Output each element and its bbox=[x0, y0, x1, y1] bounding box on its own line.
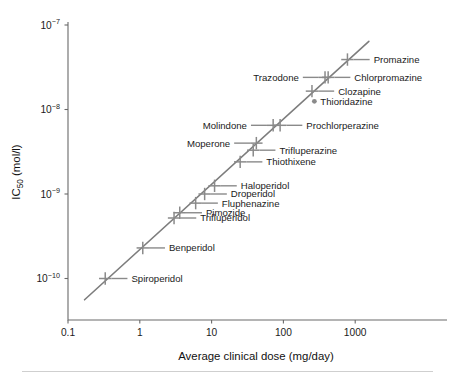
point-marker-dot bbox=[312, 99, 317, 104]
data-point: Molindone bbox=[203, 119, 280, 131]
point-label: Trazodone bbox=[253, 72, 299, 83]
point-label: Chlorpromazine bbox=[354, 72, 422, 83]
data-point: Chlorpromazine bbox=[322, 71, 422, 83]
point-label: Moperone bbox=[187, 138, 230, 149]
axis-lines bbox=[68, 22, 447, 320]
point-label: Promazine bbox=[374, 54, 420, 65]
y-tick-label: 10−9 bbox=[40, 186, 60, 199]
x-axis-ticks: 0.11101001000 bbox=[61, 320, 367, 338]
point-label: Benperidol bbox=[169, 242, 215, 253]
y-axis-ticks: 10−710−810−910−10 bbox=[36, 17, 68, 284]
point-label: Thioridazine bbox=[320, 96, 372, 107]
point-label: Trifluperazine bbox=[279, 145, 337, 156]
point-label: Prochlorperazine bbox=[306, 120, 379, 131]
x-tick-label: 10 bbox=[206, 327, 218, 338]
point-label: Trifluperidol bbox=[200, 212, 250, 223]
x-tick-label: 1000 bbox=[344, 327, 367, 338]
footer-rule bbox=[22, 371, 433, 372]
data-point: Thiothixene bbox=[234, 156, 316, 168]
scatter-plot: 0.11101001000 10−710−810−910−10 Promazin… bbox=[0, 0, 455, 378]
regression-line bbox=[85, 41, 369, 299]
data-point: Thioridazine bbox=[312, 96, 373, 107]
regression-line-group bbox=[85, 41, 369, 299]
point-label: Thiothixene bbox=[266, 156, 316, 167]
point-label: Spiroperidol bbox=[131, 273, 182, 284]
x-tick-label: 0.1 bbox=[61, 327, 75, 338]
axes-group bbox=[68, 22, 447, 320]
point-label: Molindone bbox=[203, 120, 247, 131]
figure-container: 0.11101001000 10−710−810−910−10 Promazin… bbox=[0, 0, 455, 378]
y-tick-label: 10−7 bbox=[40, 17, 60, 30]
data-point: Trifluperazine bbox=[247, 144, 337, 156]
x-tick-label: 1 bbox=[137, 327, 143, 338]
data-point: Prochlorperazine bbox=[274, 119, 379, 131]
data-points-group: PromazineChlorpromazineTrazodoneClozapin… bbox=[99, 53, 422, 284]
y-axis-title: IC50 (mol/l) bbox=[10, 144, 25, 200]
x-tick-label: 100 bbox=[275, 327, 292, 338]
data-point: Trazodone bbox=[253, 71, 331, 83]
data-point: Benperidol bbox=[137, 242, 215, 254]
y-tick-label: 10−8 bbox=[40, 102, 60, 115]
y-tick-label: 10−10 bbox=[36, 271, 60, 284]
x-axis-title: Average clinical dose (mg/day) bbox=[178, 350, 334, 362]
